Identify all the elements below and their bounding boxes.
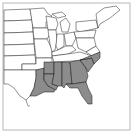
range-map (0, 0, 136, 137)
map-svg (0, 0, 136, 137)
